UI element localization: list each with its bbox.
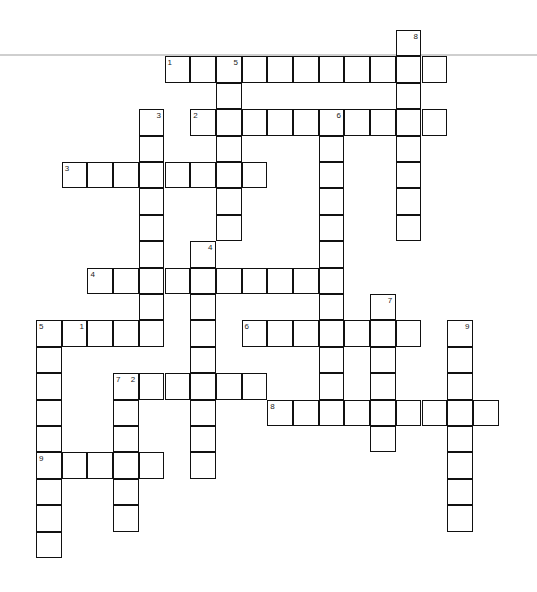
crossword-cell[interactable] xyxy=(319,136,345,162)
crossword-cell[interactable] xyxy=(190,162,216,188)
crossword-cell[interactable] xyxy=(190,320,216,346)
crossword-cell[interactable] xyxy=(319,294,345,320)
crossword-cell[interactable] xyxy=(139,188,165,214)
crossword-cell[interactable] xyxy=(319,320,345,346)
crossword-cell[interactable] xyxy=(36,347,62,373)
crossword-cell[interactable] xyxy=(36,426,62,452)
crossword-cell[interactable] xyxy=(190,268,216,294)
crossword-cell[interactable] xyxy=(113,452,139,478)
crossword-cell[interactable] xyxy=(370,373,396,399)
crossword-cell[interactable] xyxy=(370,347,396,373)
crossword-cell[interactable] xyxy=(242,162,268,188)
crossword-cell[interactable] xyxy=(190,347,216,373)
crossword-cell[interactable] xyxy=(396,109,422,135)
crossword-cell[interactable] xyxy=(396,188,422,214)
crossword-cell[interactable] xyxy=(293,400,319,426)
crossword-cell[interactable] xyxy=(216,215,242,241)
crossword-cell[interactable] xyxy=(344,56,370,82)
crossword-cell[interactable] xyxy=(319,162,345,188)
crossword-cell[interactable] xyxy=(396,215,422,241)
crossword-cell[interactable] xyxy=(87,162,113,188)
crossword-cell[interactable] xyxy=(139,136,165,162)
crossword-cell[interactable] xyxy=(344,109,370,135)
crossword-cell[interactable] xyxy=(190,426,216,452)
crossword-cell[interactable] xyxy=(370,320,396,346)
crossword-cell[interactable] xyxy=(139,373,165,399)
crossword-cell[interactable] xyxy=(216,373,242,399)
crossword-cell[interactable] xyxy=(370,426,396,452)
crossword-cell[interactable] xyxy=(447,452,473,478)
crossword-cell[interactable] xyxy=(113,162,139,188)
crossword-cell[interactable] xyxy=(190,373,216,399)
crossword-cell[interactable] xyxy=(293,320,319,346)
crossword-cell[interactable] xyxy=(319,56,345,82)
crossword-cell[interactable] xyxy=(36,373,62,399)
crossword-cell[interactable] xyxy=(216,109,242,135)
crossword-cell[interactable] xyxy=(113,505,139,531)
crossword-cell[interactable] xyxy=(473,400,499,426)
crossword-cell[interactable] xyxy=(396,83,422,109)
crossword-cell[interactable] xyxy=(344,400,370,426)
crossword-cell[interactable] xyxy=(139,294,165,320)
crossword-cell[interactable] xyxy=(319,241,345,267)
crossword-cell[interactable] xyxy=(165,162,191,188)
crossword-cell[interactable] xyxy=(165,373,191,399)
crossword-cell[interactable] xyxy=(216,188,242,214)
crossword-cell[interactable] xyxy=(242,373,268,399)
crossword-cell[interactable] xyxy=(447,426,473,452)
crossword-cell[interactable] xyxy=(216,268,242,294)
crossword-cell[interactable] xyxy=(62,452,88,478)
crossword-cell[interactable] xyxy=(139,452,165,478)
crossword-cell[interactable] xyxy=(447,373,473,399)
crossword-cell[interactable] xyxy=(190,400,216,426)
crossword-cell[interactable] xyxy=(293,268,319,294)
crossword-cell[interactable] xyxy=(422,56,448,82)
crossword-cell[interactable] xyxy=(396,162,422,188)
crossword-cell[interactable] xyxy=(370,109,396,135)
crossword-cell[interactable] xyxy=(36,479,62,505)
crossword-cell[interactable] xyxy=(113,479,139,505)
crossword-cell[interactable] xyxy=(396,136,422,162)
crossword-cell[interactable] xyxy=(216,162,242,188)
crossword-cell[interactable] xyxy=(113,426,139,452)
crossword-cell[interactable] xyxy=(139,241,165,267)
crossword-cell[interactable] xyxy=(139,215,165,241)
crossword-cell[interactable] xyxy=(190,56,216,82)
crossword-cell[interactable] xyxy=(344,320,370,346)
crossword-cell[interactable] xyxy=(242,56,268,82)
crossword-cell[interactable] xyxy=(139,162,165,188)
crossword-cell[interactable] xyxy=(319,347,345,373)
crossword-cell[interactable] xyxy=(447,479,473,505)
crossword-cell[interactable] xyxy=(396,56,422,82)
crossword-cell[interactable] xyxy=(319,188,345,214)
crossword-cell[interactable] xyxy=(422,400,448,426)
crossword-cell[interactable] xyxy=(139,268,165,294)
crossword-cell[interactable] xyxy=(87,320,113,346)
crossword-cell[interactable] xyxy=(293,56,319,82)
crossword-cell[interactable] xyxy=(36,400,62,426)
crossword-cell[interactable] xyxy=(319,400,345,426)
crossword-cell[interactable] xyxy=(36,505,62,531)
crossword-cell[interactable] xyxy=(113,268,139,294)
crossword-cell[interactable] xyxy=(447,505,473,531)
crossword-cell[interactable] xyxy=(370,56,396,82)
crossword-cell[interactable] xyxy=(139,320,165,346)
crossword-cell[interactable] xyxy=(267,268,293,294)
crossword-cell[interactable] xyxy=(447,400,473,426)
crossword-cell[interactable] xyxy=(190,452,216,478)
crossword-cell[interactable] xyxy=(396,320,422,346)
crossword-cell[interactable] xyxy=(87,452,113,478)
crossword-cell[interactable] xyxy=(216,136,242,162)
crossword-cell[interactable] xyxy=(447,347,473,373)
crossword-cell[interactable] xyxy=(242,109,268,135)
crossword-cell[interactable] xyxy=(319,268,345,294)
crossword-cell[interactable] xyxy=(422,109,448,135)
crossword-cell[interactable] xyxy=(113,400,139,426)
crossword-cell[interactable] xyxy=(267,56,293,82)
crossword-cell[interactable] xyxy=(319,215,345,241)
crossword-cell[interactable] xyxy=(216,83,242,109)
crossword-cell[interactable] xyxy=(165,268,191,294)
crossword-cell[interactable] xyxy=(190,294,216,320)
crossword-cell[interactable] xyxy=(319,373,345,399)
crossword-cell[interactable] xyxy=(370,400,396,426)
